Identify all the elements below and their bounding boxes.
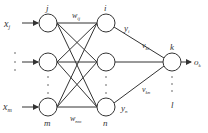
neural-network-diagram: xj xm j m i n k l wij wnm vki vkn yi yn … [0, 0, 208, 133]
node-label-j: j [45, 3, 49, 13]
node-label-n: n [103, 118, 108, 128]
node-label-i: i [104, 3, 107, 13]
input-node-m [39, 98, 57, 116]
weight-label-wnm: wnm [70, 114, 82, 124]
output-label-ok: ok [194, 57, 202, 68]
node-label-l: l [171, 100, 174, 110]
weight-label-vki: vki [142, 41, 150, 51]
weight-label-vkn: vkn [142, 85, 151, 95]
input-label-xj: xj [3, 18, 10, 30]
input-label-xm: xm [2, 101, 12, 113]
input-node-j [39, 14, 57, 32]
hidden-output-yi: yi [123, 23, 130, 34]
hidden-output-yn: yn [120, 103, 128, 114]
node-label-k: k [170, 42, 175, 52]
hidden-node-n [97, 98, 115, 116]
output-node-k [163, 53, 181, 71]
input-hidden-connections [57, 23, 97, 107]
hidden-output-connections [114, 27, 164, 103]
weight-label-wij: wij [72, 11, 81, 21]
hidden-node-mid [97, 53, 115, 71]
hidden-node-i [97, 14, 115, 32]
input-node-mid [39, 53, 57, 71]
node-label-m: m [44, 118, 51, 128]
